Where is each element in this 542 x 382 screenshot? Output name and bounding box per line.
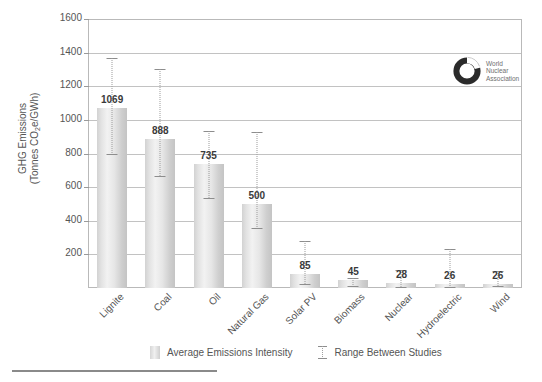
y-tick-label-200: 200	[46, 248, 82, 258]
wna-logo-line2: Nuclear	[486, 67, 519, 75]
bar-value-label: 735	[200, 150, 217, 161]
legend-item-average-emissions-intensity: Average Emissions Intensity	[150, 346, 292, 359]
x-axis-label-lignite: Lignite	[97, 291, 126, 320]
chart-legend: Average Emissions Intensity Range Betwee…	[150, 346, 442, 359]
error-bar	[444, 249, 455, 287]
bar-value-label: 26	[444, 270, 455, 281]
bar-value-label: 28	[396, 269, 407, 280]
bar-group: 28	[377, 19, 425, 288]
y-tick-label-800: 800	[46, 148, 82, 158]
wna-logo-line1: World	[486, 60, 519, 68]
x-axis-label-wind: Wind	[488, 291, 512, 315]
bar-value-label: 85	[299, 260, 310, 271]
chart-canvas: 2004006008001000120014001600 GHG Emissio…	[0, 0, 542, 382]
x-axis-category-labels: LigniteCoalOilNatural GasSolar PVBiomass…	[88, 289, 522, 347]
wna-logo-line3: Association	[486, 75, 519, 83]
y-tick-label-400: 400	[46, 215, 82, 225]
error-bar	[348, 278, 359, 287]
y-axis-title: GHG Emissions (Tonnes CO2e/GWh)	[17, 64, 42, 214]
legend-swatch-bar-icon	[150, 346, 160, 359]
y-axis-title-line2: (Tonnes CO2e/GWh)	[29, 64, 42, 214]
x-axis-label-coal: Coal	[152, 291, 174, 313]
bar-group: 1069	[88, 19, 136, 288]
y-tick-label-1000: 1000	[46, 114, 82, 124]
bar-value-label: 45	[348, 266, 359, 277]
y-axis-title-line1: GHG Emissions	[17, 64, 29, 214]
bar-group: 45	[329, 19, 377, 288]
y-tick-label-1600: 1600	[46, 13, 82, 23]
y-tick-label-1200: 1200	[46, 80, 82, 90]
error-bar	[107, 58, 118, 156]
legend-label-range-between-studies: Range Between Studies	[334, 347, 441, 358]
bar-value-label: 500	[248, 190, 265, 201]
bar-value-label: 888	[152, 125, 169, 136]
error-bar	[251, 132, 262, 230]
error-bar	[203, 131, 214, 199]
bar-group: 888	[136, 19, 184, 288]
wna-logo-text: World Nuclear Association	[486, 60, 519, 83]
x-axis-label-biomass: Biomass	[332, 291, 367, 326]
legend-swatch-errorbar-icon	[318, 346, 327, 359]
x-axis-label-natural-gas: Natural Gas	[225, 291, 271, 337]
x-axis-label-oil: Oil	[206, 291, 222, 307]
x-axis-label-nuclear: Nuclear	[383, 291, 415, 323]
error-bar	[155, 69, 166, 177]
y-tick-label-1400: 1400	[46, 47, 82, 57]
bar-group: 85	[281, 19, 329, 288]
legend-label-average-emissions-intensity: Average Emissions Intensity	[167, 347, 292, 358]
y-tick-label-600: 600	[46, 181, 82, 191]
x-axis-label-solar-pv: Solar PV	[283, 291, 319, 327]
bar-group: 735	[184, 19, 232, 288]
legend-item-range-between-studies: Range Between Studies	[318, 346, 441, 359]
wna-ring-icon	[452, 56, 482, 86]
x-axis-label-hydroelectric: Hydroelectric	[414, 291, 463, 340]
world-nuclear-association-logo: World Nuclear Association	[452, 56, 519, 86]
bar-group: 500	[233, 19, 281, 288]
bottom-divider	[12, 370, 217, 372]
bar-value-label: 26	[492, 270, 503, 281]
bar-value-label: 1069	[101, 94, 123, 105]
